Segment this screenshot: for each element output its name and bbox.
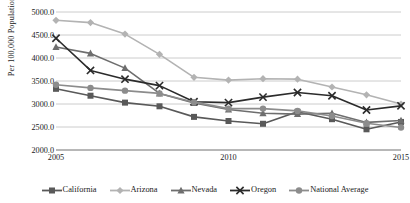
- data-point-marker: [49, 187, 55, 193]
- legend-item-arizona[interactable]: Arizona: [110, 186, 158, 195]
- data-point-marker: [121, 30, 128, 37]
- y-axis-tick-label: 4000.0: [31, 54, 54, 63]
- plot-svg: [56, 12, 401, 150]
- legend-swatch-triangle-icon: [171, 186, 191, 195]
- line-chart: Per 100,000 Population 2000.02500.03000.…: [0, 0, 410, 203]
- x-axis-tick-label: 2015: [393, 153, 409, 162]
- legend-item-nevada[interactable]: Nevada: [171, 186, 218, 195]
- y-axis-tick-label: 3500.0: [31, 77, 54, 86]
- data-point-marker: [87, 19, 94, 26]
- data-point-marker: [116, 186, 123, 193]
- data-point-marker: [87, 85, 93, 91]
- data-point-marker: [122, 87, 128, 93]
- series-arizona: [52, 17, 404, 108]
- data-point-marker: [296, 187, 302, 193]
- legend-swatch-diamond-icon: [110, 186, 130, 195]
- legend-item-label: California: [63, 186, 97, 194]
- legend-item-label: Nevada: [192, 186, 218, 194]
- data-point-marker: [363, 120, 369, 126]
- y-axis-tick-labels: 2000.02500.03000.03500.04000.04500.05000…: [8, 0, 54, 160]
- y-axis-tick-label: 3000.0: [31, 100, 54, 109]
- data-point-marker: [191, 99, 197, 105]
- legend-item-oregon[interactable]: Oregon: [230, 186, 276, 195]
- data-point-marker: [88, 93, 94, 99]
- data-point-marker: [294, 108, 300, 114]
- data-point-marker: [156, 90, 162, 96]
- legend-item-label: National Average: [310, 186, 368, 194]
- data-point-marker: [225, 105, 231, 111]
- y-axis-tick-label: 2500.0: [31, 123, 54, 132]
- data-point-marker: [191, 114, 197, 120]
- data-point-marker: [364, 126, 370, 132]
- y-axis-tick-label: 5000.0: [31, 8, 54, 17]
- data-point-marker: [329, 113, 335, 119]
- data-point-marker: [260, 121, 266, 127]
- data-point-marker: [328, 83, 335, 90]
- data-point-marker: [225, 76, 232, 83]
- legend-swatch-circle-icon: [289, 186, 309, 195]
- legend-item-national-average[interactable]: National Average: [289, 186, 368, 195]
- plot-area: [56, 12, 401, 150]
- legend-item-label: Arizona: [131, 186, 158, 194]
- x-axis-tick-labels: 200520102015: [56, 153, 401, 167]
- data-point-marker: [260, 105, 266, 111]
- legend-swatch-square-icon: [42, 186, 62, 195]
- series-oregon: [52, 35, 404, 114]
- series-line: [56, 20, 401, 104]
- data-point-marker: [398, 124, 404, 130]
- series-nevada: [52, 43, 404, 125]
- x-axis-tick-label: 2010: [220, 153, 236, 162]
- x-axis-tick-label: 2005: [48, 153, 64, 162]
- data-point-marker: [53, 81, 59, 87]
- y-axis-tick-label: 4500.0: [31, 31, 54, 40]
- legend-item-california[interactable]: California: [42, 186, 97, 195]
- data-point-marker: [226, 118, 232, 124]
- data-point-marker: [363, 91, 370, 98]
- data-point-marker: [157, 103, 163, 109]
- data-point-marker: [122, 100, 128, 106]
- data-point-marker: [294, 76, 301, 83]
- legend-item-label: Oregon: [251, 186, 276, 194]
- legend-swatch-x-icon: [230, 186, 250, 195]
- chart-legend: CaliforniaArizonaNevadaOregonNational Av…: [0, 180, 410, 200]
